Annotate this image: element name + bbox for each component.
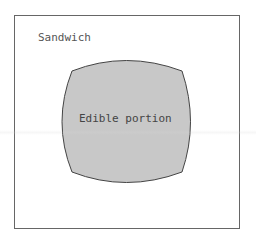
sandwich-label: Sandwich [38, 31, 91, 44]
scan-band [0, 130, 256, 135]
edible-portion-label: Edible portion [79, 112, 172, 125]
